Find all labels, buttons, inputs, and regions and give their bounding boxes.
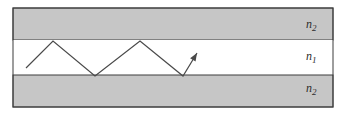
bottom-cladding-layer — [13, 75, 333, 107]
label-bottom-cladding-sub: 2 — [312, 87, 317, 97]
label-top-cladding: n2 — [306, 17, 317, 35]
label-core: n1 — [306, 49, 317, 67]
label-top-cladding-sub: 2 — [312, 23, 317, 33]
label-core-sub: 1 — [312, 55, 317, 65]
waveguide-svg — [0, 0, 341, 114]
top-cladding-layer — [13, 8, 333, 40]
core-layer — [13, 40, 333, 75]
waveguide-diagram: n2 n1 n2 — [0, 0, 341, 114]
label-bottom-cladding: n2 — [306, 81, 317, 99]
